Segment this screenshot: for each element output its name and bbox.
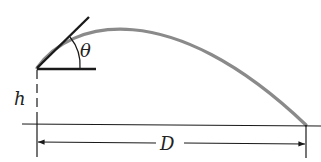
projectile-diagram: θ h D: [0, 0, 321, 162]
distance-label: D: [159, 133, 175, 154]
distance-arrow-right: [184, 143, 305, 144]
height-label: h: [14, 88, 26, 109]
ground-line: [22, 124, 321, 126]
distance-arrow-left: [38, 142, 156, 143]
angle-arc: [70, 37, 80, 69]
trajectory-curve: [37, 29, 306, 125]
angle-label: θ: [80, 40, 91, 61]
